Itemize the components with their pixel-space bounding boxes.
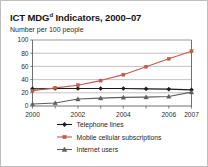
- y-tick-label: 20: [21, 89, 29, 96]
- data-point: [31, 89, 34, 92]
- y-tick-label: 100: [17, 36, 28, 43]
- y-axis-tick-labels: 020406080100: [17, 36, 28, 109]
- data-series-group: [30, 50, 193, 106]
- chart-figure: ICT MDGd Indicators, 2000–07 Number per …: [0, 0, 208, 167]
- x-tick-label: 2006: [161, 111, 176, 118]
- x-tick-label: 2002: [71, 111, 86, 118]
- data-point: [144, 87, 148, 91]
- data-point: [122, 73, 125, 76]
- series-internet-users: [30, 90, 193, 106]
- data-point: [167, 87, 171, 91]
- x-tick-label: 2004: [116, 111, 131, 118]
- y-tick-label: 80: [21, 50, 29, 57]
- y-tick-label: 60: [21, 63, 29, 70]
- legend-label: Mobile cellular subscriptions: [77, 134, 163, 142]
- legend-item-internet-users[interactable]: Internet users: [57, 146, 119, 153]
- data-point: [54, 86, 57, 89]
- data-point: [121, 86, 125, 90]
- chart-svg: 020406080100 20002002200420062007 Teleph…: [1, 1, 208, 167]
- x-tick-label: 2007: [184, 111, 199, 118]
- data-point: [145, 65, 148, 68]
- legend-item-telephone-lines[interactable]: Telephone lines: [57, 121, 124, 129]
- data-point: [76, 84, 79, 87]
- legend-item-mobile-cellular-subscriptions[interactable]: Mobile cellular subscriptions: [57, 134, 162, 142]
- legend-marker: [63, 135, 66, 138]
- data-point: [99, 79, 102, 82]
- plot-area: 020406080100 20002002200420062007 Teleph…: [1, 1, 208, 167]
- data-point: [190, 50, 193, 53]
- y-tick-label: 40: [21, 76, 29, 83]
- legend-marker: [62, 122, 67, 127]
- y-tick-label: 0: [25, 102, 29, 109]
- x-tick-label: 2000: [25, 111, 40, 118]
- data-point: [167, 57, 170, 60]
- data-point: [99, 86, 103, 90]
- legend-label: Internet users: [77, 146, 119, 153]
- data-point: [76, 86, 80, 90]
- legend-label: Telephone lines: [77, 121, 125, 129]
- x-axis-tick-labels: 20002002200420062007: [25, 111, 199, 118]
- chart-legend: Telephone linesMobile cellular subscript…: [57, 121, 162, 153]
- series-mobile-cellular-subscriptions: [31, 50, 193, 93]
